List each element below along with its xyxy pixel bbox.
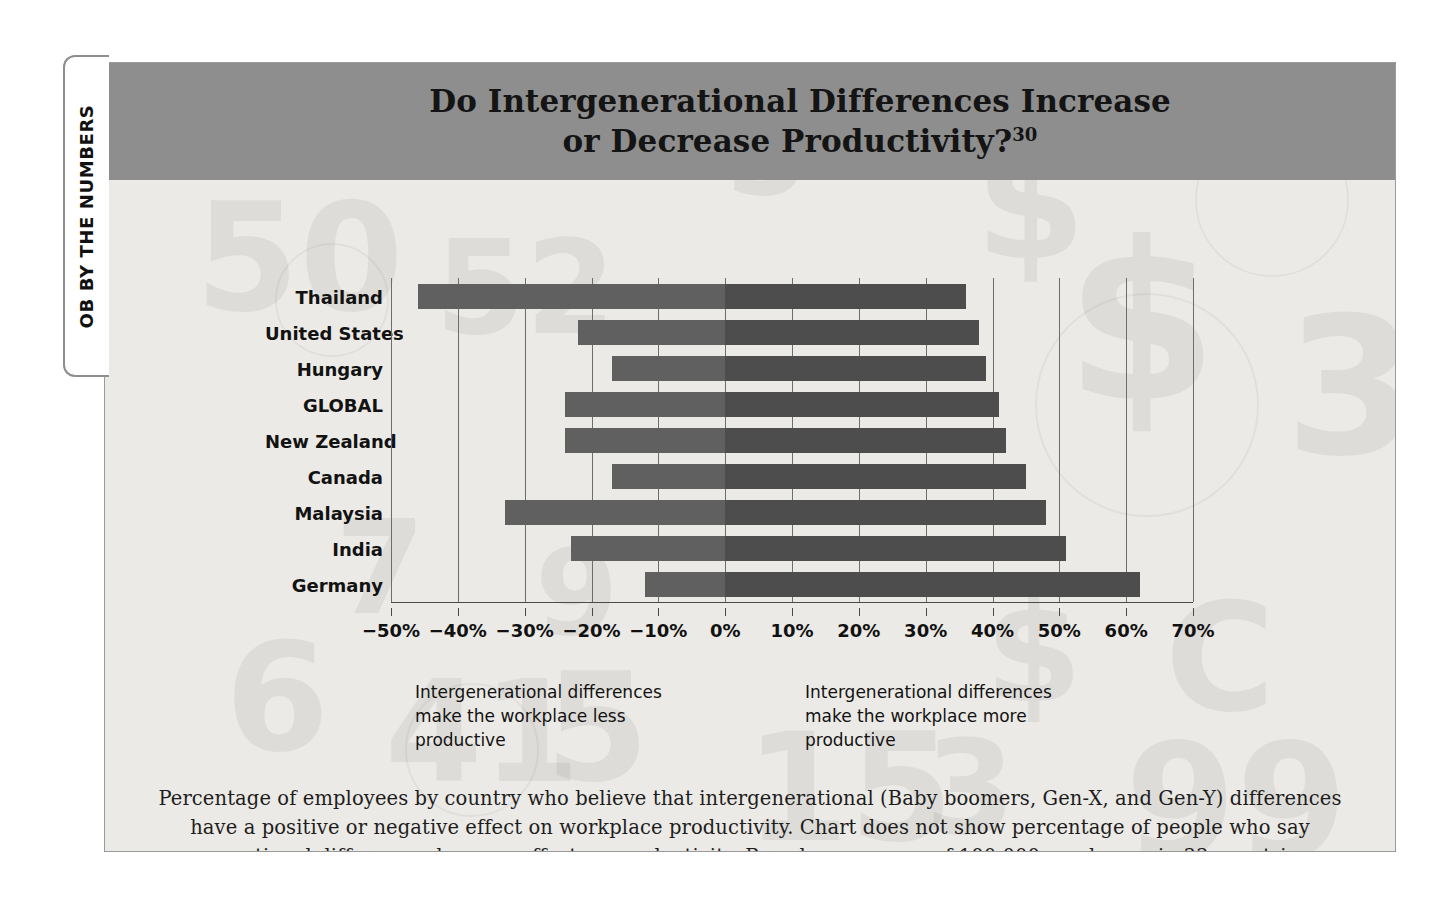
value-tick-label: 30% — [904, 620, 947, 641]
figure-caption: Percentage of employees by country who b… — [135, 785, 1365, 852]
bar-positive — [725, 284, 966, 309]
category-label: GLOBAL — [265, 395, 383, 416]
bar-negative — [578, 320, 725, 345]
tick-mark — [592, 608, 593, 616]
title-line-2: or Decrease Productivity? — [563, 123, 1013, 159]
tick-mark — [1126, 608, 1127, 616]
bar-positive — [725, 464, 1026, 489]
tick-mark — [926, 608, 927, 616]
bar-positive — [725, 392, 999, 417]
gridline — [1193, 278, 1194, 602]
value-tick-label: 40% — [971, 620, 1014, 641]
tick-mark — [458, 608, 459, 616]
value-axis-labels: −50%−40%−30%−20%−10%0%10%20%30%40%50%60%… — [391, 608, 1193, 638]
value-tick-label: −50% — [362, 620, 420, 641]
tick-mark — [725, 608, 726, 616]
bar-positive — [725, 320, 979, 345]
page-title: Do Intergenerational Differences Increas… — [309, 82, 1191, 161]
tick-mark — [993, 608, 994, 616]
bar-negative — [505, 500, 726, 525]
value-tick-label: −20% — [562, 620, 620, 641]
annotation-more-productive: Intergenerational differences make the w… — [805, 680, 1075, 752]
tick-mark — [391, 608, 392, 616]
tick-mark — [658, 608, 659, 616]
bar-negative — [565, 392, 725, 417]
plot-region — [391, 278, 1193, 602]
bar-negative — [645, 572, 725, 597]
bar-positive — [725, 428, 1006, 453]
annotation-row: Intergenerational differences make the w… — [415, 680, 1175, 752]
value-tick-label: 50% — [1038, 620, 1081, 641]
value-tick-label: 10% — [770, 620, 813, 641]
category-label: Hungary — [265, 359, 383, 380]
category-label: Germany — [265, 575, 383, 596]
title-line-1: Do Intergenerational Differences Increas… — [429, 83, 1171, 119]
side-tab-label: OB BY THE NUMBERS — [77, 104, 98, 328]
category-label: Malaysia — [265, 503, 383, 524]
bar-negative — [418, 284, 725, 309]
gridline — [391, 278, 392, 602]
section-side-tab: OB BY THE NUMBERS — [63, 55, 109, 377]
footnote-marker: 30 — [1012, 123, 1037, 144]
category-label: Thailand — [265, 287, 383, 308]
bar-positive — [725, 356, 986, 381]
bar-negative — [565, 428, 725, 453]
gridline — [458, 278, 459, 602]
value-tick-label: 20% — [837, 620, 880, 641]
category-label: United States — [265, 323, 383, 344]
tick-mark — [525, 608, 526, 616]
annotation-less-productive: Intergenerational differences make the w… — [415, 680, 685, 752]
bar-positive — [725, 536, 1066, 561]
figure-panel: 50 52 5 $ $ 3 7 9 6 41 5 $ C 15 99 3 Do … — [104, 62, 1396, 852]
figure-title-bar: Do Intergenerational Differences Increas… — [105, 63, 1395, 180]
value-tick-label: 0% — [710, 620, 741, 641]
bar-negative — [571, 536, 725, 561]
bar-positive — [725, 500, 1046, 525]
bar-positive — [725, 572, 1139, 597]
category-label: India — [265, 539, 383, 560]
tick-mark — [1059, 608, 1060, 616]
gridline — [525, 278, 526, 602]
value-tick-label: −40% — [429, 620, 487, 641]
value-tick-label: 60% — [1105, 620, 1148, 641]
tick-mark — [1193, 608, 1194, 616]
category-label: New Zealand — [265, 431, 383, 452]
value-tick-label: 70% — [1171, 620, 1214, 641]
bar-negative — [612, 464, 726, 489]
chart-area: ThailandUnited StatesHungaryGLOBALNew Ze… — [105, 180, 1395, 851]
tick-mark — [792, 608, 793, 616]
tick-mark — [859, 608, 860, 616]
value-tick-label: −30% — [496, 620, 554, 641]
category-label: Canada — [265, 467, 383, 488]
bar-negative — [612, 356, 726, 381]
value-tick-label: −10% — [629, 620, 687, 641]
x-axis-line — [391, 602, 1193, 603]
category-axis-labels: ThailandUnited StatesHungaryGLOBALNew Ze… — [265, 280, 383, 600]
gridline — [1126, 278, 1127, 602]
